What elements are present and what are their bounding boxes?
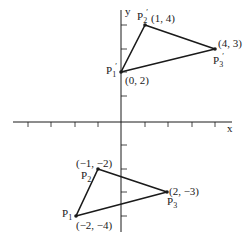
y-axis-label: y <box>125 6 131 17</box>
triangle-image <box>121 25 215 72</box>
y-axis-ticks <box>121 25 127 216</box>
point-label-p3: P3 <box>167 196 177 210</box>
coord-label-p3-prime: (4, 3) <box>218 38 242 49</box>
coordinate-plane-figure <box>0 0 250 243</box>
coord-label-p2-prime: (1, 4) <box>151 13 175 24</box>
coord-label-p2: (−1, −2) <box>76 158 112 169</box>
point-label-p2: P2 <box>81 170 91 184</box>
point-label-p1-prime: P1′ <box>106 63 117 79</box>
point-label-p3-prime: P3′ <box>213 53 224 69</box>
point-label-p1: P1 <box>62 208 72 222</box>
coord-label-p1: (−2, −4) <box>76 220 112 231</box>
x-axis-label: x <box>227 123 233 134</box>
point-label-p2-prime: P2′ <box>137 9 148 25</box>
coord-label-p1-prime: (0, 2) <box>125 75 149 86</box>
